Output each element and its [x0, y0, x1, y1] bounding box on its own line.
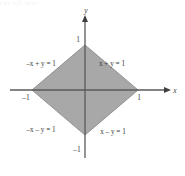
- y-tick-negative-one: –1: [72, 145, 81, 154]
- y-tick-positive-one: 1: [76, 35, 80, 44]
- x-axis-arrowhead: [164, 87, 171, 93]
- x-axis-label: x: [172, 86, 177, 95]
- edge-label-upper-left: –x + y = 1: [25, 60, 56, 68]
- edge-label-lower-left: –x – y = 1: [25, 126, 56, 134]
- edge-label-lower-right: x – y = 1: [100, 128, 126, 136]
- math-figure: x y 1 –1 1 –1 x + y = 1 –x + y = 1 x – y…: [0, 0, 185, 176]
- y-axis-label: y: [83, 6, 88, 15]
- y-axis-arrowhead: [82, 15, 88, 22]
- x-tick-negative-one: –1: [21, 93, 30, 102]
- x-tick-positive-one: 1: [137, 93, 141, 102]
- edge-label-upper-right: x + y = 1: [99, 60, 125, 68]
- coordinate-plane-svg: x y 1 –1 1 –1 x + y = 1 –x + y = 1 x – y…: [0, 0, 185, 176]
